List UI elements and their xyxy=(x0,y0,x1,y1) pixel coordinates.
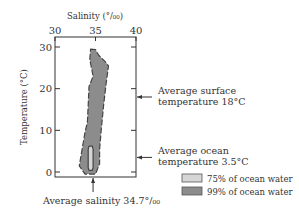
legend-label: 75% of ocean water xyxy=(207,174,294,184)
legend-swatch xyxy=(182,174,202,182)
annotation-text-ocean: temperature 3.5°C xyxy=(158,156,249,167)
x-tick-label: 30 xyxy=(49,25,62,36)
annotation-text-surface: Average surface xyxy=(157,85,236,96)
arrowhead-icon xyxy=(137,95,142,99)
ts-diagram-chart: Salinity (°/₀₀) Temperature (°C) 3035400… xyxy=(0,0,299,220)
legend-swatch xyxy=(182,187,202,195)
y-axis-title: Temperature (°C) xyxy=(19,69,29,145)
area-75-percent xyxy=(88,146,93,170)
x-axis-title: Salinity (°/₀₀) xyxy=(67,11,123,21)
arrowhead-icon xyxy=(137,155,142,159)
x-tick-label: 35 xyxy=(89,25,102,36)
annotation-text-surface: temperature 18°C xyxy=(158,96,246,107)
legend-label: 99% of ocean water xyxy=(207,187,294,197)
y-tick-label: 0 xyxy=(46,167,52,178)
y-tick-label: 10 xyxy=(39,125,52,136)
y-tick-label: 20 xyxy=(39,83,52,94)
y-tick-label: 30 xyxy=(39,42,52,53)
annotation-text-ocean: Average ocean xyxy=(157,145,229,156)
x-tick-label: 40 xyxy=(130,25,143,36)
annotation-text-salinity: Average salinity 34.7°/₀₀ xyxy=(42,195,160,206)
area-99-percent xyxy=(79,49,108,174)
arrowhead-icon xyxy=(91,178,95,183)
